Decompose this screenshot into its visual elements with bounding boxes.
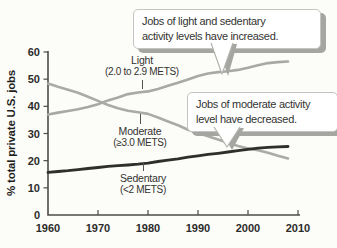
x-axis-tick-label: 1980	[136, 222, 160, 234]
leader-line-sedentary	[143, 162, 144, 171]
y-axis-tick-label: 50	[28, 73, 40, 85]
x-axis-tick-label: 2010	[286, 222, 310, 234]
y-axis-tick-label: 10	[28, 182, 40, 194]
y-axis-tick-label: 0	[34, 209, 40, 221]
x-axis-tick-label: 1960	[36, 222, 60, 234]
x-axis-tick-label: 1990	[186, 222, 210, 234]
x-axis-tick-label: 2000	[236, 222, 260, 234]
callout-decrease: Jobs of moderate activity level have dec…	[187, 92, 337, 132]
y-axis-title: % total private U.S. jobs	[5, 70, 17, 196]
series-label-moderate-name: Moderate	[85, 125, 195, 137]
series-label-light: Light (2.0 to 2.9 METS)	[87, 54, 197, 78]
y-axis-tick-label: 60	[28, 46, 40, 58]
series-label-light-detail: (2.0 to 2.9 METS)	[87, 66, 197, 78]
series-label-moderate-detail: (≥3.0 METS)	[85, 137, 195, 149]
series-label-light-name: Light	[87, 54, 197, 66]
callout-increase: Jobs of light and sedentary activity lev…	[133, 9, 321, 49]
x-axis-tick-label: 1970	[86, 222, 110, 234]
y-axis-tick-label: 40	[28, 100, 40, 112]
callout-increase-line1: Jobs of light and sedentary	[142, 14, 312, 29]
activity-jobs-chart-figure: 0102030405060196019701980199020002010 % …	[0, 0, 337, 248]
series-label-sedentary: Sedentary (<2 METS)	[88, 172, 198, 196]
y-axis-tick-label: 30	[28, 128, 40, 140]
series-label-sedentary-name: Sedentary	[88, 172, 198, 184]
leader-line-moderate	[140, 114, 141, 124]
leader-line-light	[142, 80, 143, 89]
y-axis-tick-label: 20	[28, 155, 40, 167]
callout-decrease-line2: level have decreased.	[196, 112, 329, 127]
series-label-moderate: Moderate (≥3.0 METS)	[85, 125, 195, 149]
callout-decrease-line1: Jobs of moderate activity	[196, 97, 329, 112]
series-label-sedentary-detail: (<2 METS)	[88, 184, 198, 196]
callout-increase-line2: activity levels have increased.	[142, 29, 312, 44]
